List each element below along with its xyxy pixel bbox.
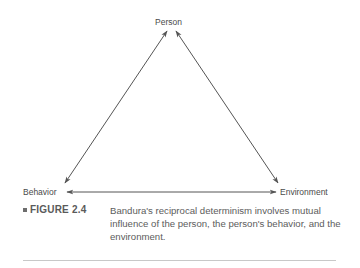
divider [23,260,336,261]
arrow-person-behavior [65,31,167,183]
caption-text: Bandura's reciprocal determinism involve… [110,204,350,243]
figure-label: FIGURE 2.4 [30,204,86,215]
caption-bullet-icon [23,208,27,212]
node-environment: Environment [280,187,328,197]
node-person: Person [155,17,182,27]
arrow-person-environment [176,31,278,183]
node-behavior: Behavior [23,187,57,197]
